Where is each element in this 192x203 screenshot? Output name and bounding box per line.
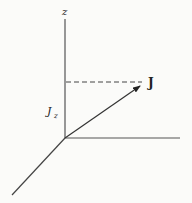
vector-j-arrow bbox=[65, 86, 140, 138]
vector-diagram: z J J z bbox=[0, 0, 192, 203]
x-axis bbox=[12, 138, 65, 195]
jz-label-main: J bbox=[45, 105, 52, 118]
z-axis-label: z bbox=[61, 6, 68, 17]
vector-j-label: J bbox=[147, 76, 154, 90]
jz-label-subscript: z bbox=[53, 112, 58, 120]
